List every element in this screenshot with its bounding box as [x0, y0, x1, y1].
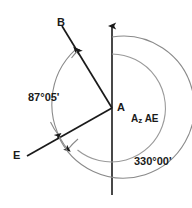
- azimuth-value-label: 330°00': [134, 156, 172, 167]
- survey-diagram: B A E 87°05' Az AE 330°00': [0, 0, 192, 208]
- point-label-b: B: [57, 17, 65, 28]
- point-label-e: E: [13, 150, 20, 161]
- angle-label-bae: 87°05': [28, 92, 60, 103]
- line-a-to-e: [27, 108, 112, 156]
- point-label-a: A: [117, 102, 125, 113]
- azimuth-name-label: Az AE: [131, 114, 159, 124]
- diagram-canvas: [0, 0, 192, 208]
- azimuth-name-subscript: z: [138, 116, 142, 125]
- angle-arc-bae-arrowhead-upper: [72, 51, 79, 59]
- angle-arc-bae-arrowhead-lower: [68, 139, 78, 150]
- azimuth-name-suffix: AE: [142, 113, 158, 124]
- line-a-to-b: [62, 26, 112, 108]
